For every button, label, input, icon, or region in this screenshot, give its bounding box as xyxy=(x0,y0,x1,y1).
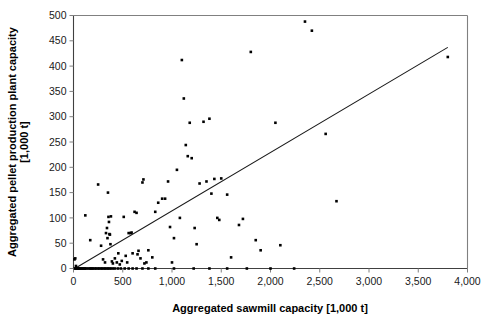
data-point xyxy=(106,237,109,240)
chart-canvas: 05001,0001,5002,0002,5003,0003,5004,000 … xyxy=(0,0,495,324)
data-point xyxy=(192,267,195,270)
data-point xyxy=(164,197,167,200)
data-point xyxy=(173,237,176,240)
data-point xyxy=(447,56,450,59)
data-point xyxy=(179,217,182,220)
data-point xyxy=(205,180,208,183)
data-point xyxy=(135,212,138,215)
data-point xyxy=(279,244,282,247)
data-point xyxy=(274,121,277,124)
x-tick-label: 4,000 xyxy=(454,275,480,287)
data-point xyxy=(246,267,249,270)
data-point xyxy=(136,253,139,256)
data-point xyxy=(193,227,196,230)
y-tick-label: 200 xyxy=(49,161,67,173)
data-point xyxy=(122,216,125,219)
data-point xyxy=(139,257,142,260)
data-point xyxy=(106,227,109,230)
plot-frame xyxy=(74,16,468,269)
scatter-chart: 05001,0001,5002,0002,5003,0003,5004,000 … xyxy=(0,0,495,324)
data-point xyxy=(110,215,113,218)
data-point xyxy=(335,200,338,203)
data-point xyxy=(188,121,191,124)
data-point xyxy=(157,201,160,204)
data-point xyxy=(176,169,179,172)
data-point xyxy=(84,214,87,217)
data-point xyxy=(259,249,262,252)
y-tick-label: 450 xyxy=(49,34,67,46)
data-point xyxy=(100,244,103,247)
x-tick-label: 3,500 xyxy=(405,275,431,287)
x-tick-label: 3,000 xyxy=(356,275,382,287)
y-tick-label: 500 xyxy=(49,9,67,21)
data-point xyxy=(105,232,108,235)
x-tick-label: 2,500 xyxy=(307,275,333,287)
data-point xyxy=(147,249,150,252)
data-point xyxy=(107,191,110,194)
data-point xyxy=(130,231,133,234)
data-point xyxy=(213,178,216,181)
y-tick-label: 100 xyxy=(49,212,67,224)
data-point xyxy=(123,267,126,270)
data-point xyxy=(97,183,100,186)
data-point xyxy=(154,211,157,214)
data-point xyxy=(147,267,150,270)
data-point xyxy=(151,256,154,259)
data-point xyxy=(169,226,172,229)
data-point xyxy=(324,133,327,136)
data-point xyxy=(173,267,176,270)
y-tick-label: 0 xyxy=(61,262,67,274)
data-point xyxy=(202,120,205,123)
data-point xyxy=(161,197,164,200)
data-point xyxy=(118,263,121,266)
y-tick-label: 150 xyxy=(49,186,67,198)
data-point xyxy=(112,262,115,265)
data-point xyxy=(220,177,223,180)
data-point xyxy=(210,192,213,195)
data-point xyxy=(107,216,110,219)
x-tick-label: 1,500 xyxy=(208,275,234,287)
y-tick-label: 400 xyxy=(49,60,67,72)
x-tick-label: 0 xyxy=(71,275,77,287)
data-point xyxy=(109,243,112,246)
data-point xyxy=(117,267,120,270)
y-axis-title-line1: Aggregated pellet production plant capac… xyxy=(6,26,18,257)
data-point xyxy=(119,267,122,270)
data-point xyxy=(137,249,140,252)
data-point xyxy=(89,239,92,242)
y-tick-label: 50 xyxy=(55,237,67,249)
data-point xyxy=(141,267,144,270)
x-tick-label: 2,000 xyxy=(257,275,283,287)
data-point xyxy=(254,239,257,242)
data-point xyxy=(293,267,296,270)
data-point xyxy=(269,267,272,270)
y-tick-label: 300 xyxy=(49,110,67,122)
data-point xyxy=(120,260,123,263)
data-point xyxy=(208,267,211,270)
data-point xyxy=(226,267,229,270)
x-axis-title: Aggregated sawmill capacity [1,000 t] xyxy=(172,302,368,314)
data-point xyxy=(304,20,307,23)
data-point xyxy=(184,144,187,147)
data-point xyxy=(116,261,119,264)
data-point xyxy=(238,224,241,227)
data-point xyxy=(135,267,138,270)
data-point xyxy=(108,221,111,224)
data-point xyxy=(145,261,148,264)
data-point xyxy=(181,59,184,62)
data-point xyxy=(74,257,77,260)
x-axis-ticks: 05001,0001,5002,0002,5003,0003,5004,000 xyxy=(71,269,481,287)
data-point xyxy=(311,29,314,32)
data-point xyxy=(154,267,157,270)
data-point xyxy=(141,181,144,184)
y-tick-label: 250 xyxy=(49,136,67,148)
data-point xyxy=(171,261,174,264)
data-point xyxy=(131,267,134,270)
data-point xyxy=(186,155,189,158)
x-tick-label: 1,000 xyxy=(159,275,185,287)
data-point xyxy=(226,193,229,196)
data-points xyxy=(73,20,449,270)
data-point xyxy=(131,252,134,255)
data-point xyxy=(142,178,145,181)
data-point xyxy=(117,252,120,255)
